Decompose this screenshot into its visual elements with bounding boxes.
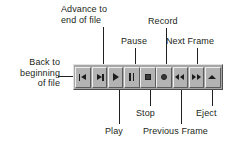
callout-eject: Eject <box>196 108 226 119</box>
leader-line-stop <box>150 90 151 106</box>
stop-icon <box>142 72 153 83</box>
eject-icon <box>207 72 218 83</box>
next-frame-button[interactable] <box>189 67 205 88</box>
transport-control-diagram: Back to beginning of file Advance to end… <box>0 0 228 150</box>
skip-forward-icon <box>94 72 105 83</box>
callout-stop: Stop <box>136 108 170 119</box>
callout-advance-to-end: Advance to end of file <box>61 4 125 25</box>
leader-line-pause <box>135 48 136 64</box>
callout-play: Play <box>105 126 139 137</box>
eject-button[interactable] <box>205 67 221 88</box>
leader-line-advance-to-end <box>103 27 104 64</box>
stop-button[interactable] <box>140 67 156 88</box>
leader-line-eject <box>212 90 213 106</box>
play-icon <box>110 72 121 83</box>
play-button[interactable] <box>108 67 124 88</box>
leader-line-previous-frame <box>181 90 182 124</box>
fast-forward-icon <box>191 72 202 83</box>
record-icon <box>159 72 170 83</box>
callout-back-to-beginning: Back to beginning of file <box>2 57 60 89</box>
callout-next-frame: Next Frame <box>166 36 228 47</box>
leader-line-play <box>119 90 120 124</box>
record-button[interactable] <box>156 67 172 88</box>
pause-icon <box>126 72 137 83</box>
skip-back-icon <box>78 72 89 83</box>
previous-frame-button[interactable] <box>173 67 189 88</box>
transport-toolbar <box>73 64 223 90</box>
callout-previous-frame: Previous Frame <box>143 126 219 137</box>
leader-line-record <box>166 28 167 64</box>
rewind-icon <box>175 72 186 83</box>
pause-button[interactable] <box>124 67 140 88</box>
callout-pause: Pause <box>121 36 161 47</box>
back-to-beginning-button[interactable] <box>75 67 91 88</box>
advance-to-end-button[interactable] <box>92 67 108 88</box>
leader-line-next-frame <box>197 48 198 64</box>
callout-record: Record <box>148 16 192 27</box>
